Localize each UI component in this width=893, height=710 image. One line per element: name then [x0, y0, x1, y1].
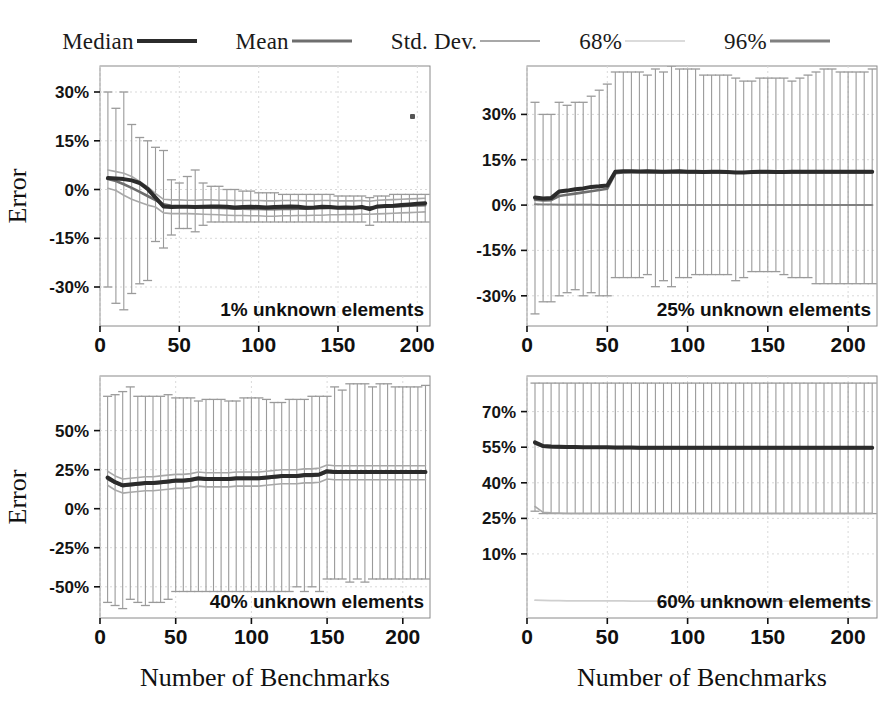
x-tick-label: 200	[400, 333, 435, 356]
y-tick-label: -25%	[49, 539, 89, 558]
x-tick-label: 200	[831, 625, 866, 648]
legend-entry-mean: Mean	[236, 29, 353, 55]
y-tick-label: 70%	[482, 403, 516, 422]
x-tick-label: 0	[94, 625, 106, 648]
y-tick-label: -30%	[49, 278, 89, 297]
figure-root: MedianMeanStd. Dev.68%96% 30%15%0%-15%-3…	[0, 0, 893, 710]
y-tick-label: 25%	[55, 461, 89, 480]
panel-caption: 60% unknown elements	[657, 591, 871, 612]
y-tick-label: -30%	[476, 287, 516, 306]
y-tick-label: 0%	[64, 500, 89, 519]
y-tick-label: 0%	[64, 181, 89, 200]
y-tick-label: 15%	[55, 132, 89, 151]
y-tick-label: 55%	[482, 438, 516, 457]
legend-label: Mean	[236, 29, 289, 55]
x-tick-label: 50	[168, 333, 191, 356]
y-tick-label: 50%	[55, 422, 89, 441]
y-axis-title: Error	[3, 469, 32, 524]
y-tick-label: 30%	[55, 83, 89, 102]
x-axis-title: Number of Benchmarks	[140, 663, 390, 692]
y-tick-label: 40%	[482, 474, 516, 493]
x-tick-label: 150	[750, 333, 785, 356]
x-tick-label: 150	[320, 333, 355, 356]
y-tick-label: 15%	[482, 151, 516, 170]
legend-label: Std. Dev.	[391, 29, 478, 55]
x-tick-label: 150	[750, 625, 785, 648]
y-tick-label: 30%	[482, 105, 516, 124]
y-tick-label: 0%	[491, 196, 516, 215]
median-line-swatch	[136, 33, 198, 51]
chart-panel-panel-60pct: 70%55%40%25%10%05010015020060% unknown e…	[447, 368, 893, 710]
chart-panel-panel-1pct: 30%15%0%-15%-30%0501001502001% unknown e…	[0, 58, 446, 368]
y-tick-label: -50%	[49, 578, 89, 597]
y-tick-label: -15%	[49, 229, 89, 248]
pct96-line	[535, 204, 872, 205]
x-tick-label: 50	[596, 333, 619, 356]
x-tick-label: 100	[241, 333, 276, 356]
y-tick-label: -15%	[476, 241, 516, 260]
legend-label: Median	[62, 29, 133, 55]
chart-panel-panel-25pct: 30%15%0%-15%-30%05010015020025% unknown …	[447, 58, 893, 368]
chart-legend: MedianMeanStd. Dev.68%96%	[0, 22, 893, 62]
pct96-line-swatch	[769, 33, 831, 51]
legend-label: 96%	[724, 29, 767, 55]
x-axis-title: Number of Benchmarks	[577, 663, 827, 692]
stddev-line-swatch	[479, 33, 541, 51]
legend-entry-96: 96%	[724, 29, 831, 55]
y-tick-label: 25%	[482, 509, 516, 528]
legend-entry-median: Median	[62, 29, 197, 55]
x-tick-label: 200	[385, 625, 420, 648]
panel-caption: 40% unknown elements	[210, 591, 424, 612]
x-tick-label: 50	[596, 625, 619, 648]
x-tick-label: 50	[164, 625, 187, 648]
mean-line-swatch	[291, 33, 353, 51]
pct68-line-swatch	[624, 33, 686, 51]
x-tick-label: 0	[521, 625, 533, 648]
legend-entry-68: 68%	[579, 29, 686, 55]
x-tick-label: 200	[831, 333, 866, 356]
x-tick-label: 100	[670, 333, 705, 356]
x-tick-label: 0	[94, 333, 106, 356]
y-axis-title: Error	[3, 168, 32, 223]
scan-artifact-dot	[410, 114, 415, 119]
y-tick-label: 10%	[482, 545, 516, 564]
x-tick-label: 0	[521, 333, 533, 356]
panel-grid: 30%15%0%-15%-30%0501001502001% unknown e…	[0, 58, 893, 710]
panel-caption: 25% unknown elements	[657, 299, 871, 320]
legend-entry-std-dev: Std. Dev.	[391, 29, 542, 55]
x-tick-label: 100	[234, 625, 269, 648]
x-tick-label: 100	[670, 625, 705, 648]
chart-panel-panel-40pct: 50%25%0%-25%-50%05010015020040% unknown …	[0, 368, 446, 710]
panel-caption: 1% unknown elements	[220, 299, 424, 320]
legend-label: 68%	[579, 29, 622, 55]
x-tick-label: 150	[310, 625, 345, 648]
